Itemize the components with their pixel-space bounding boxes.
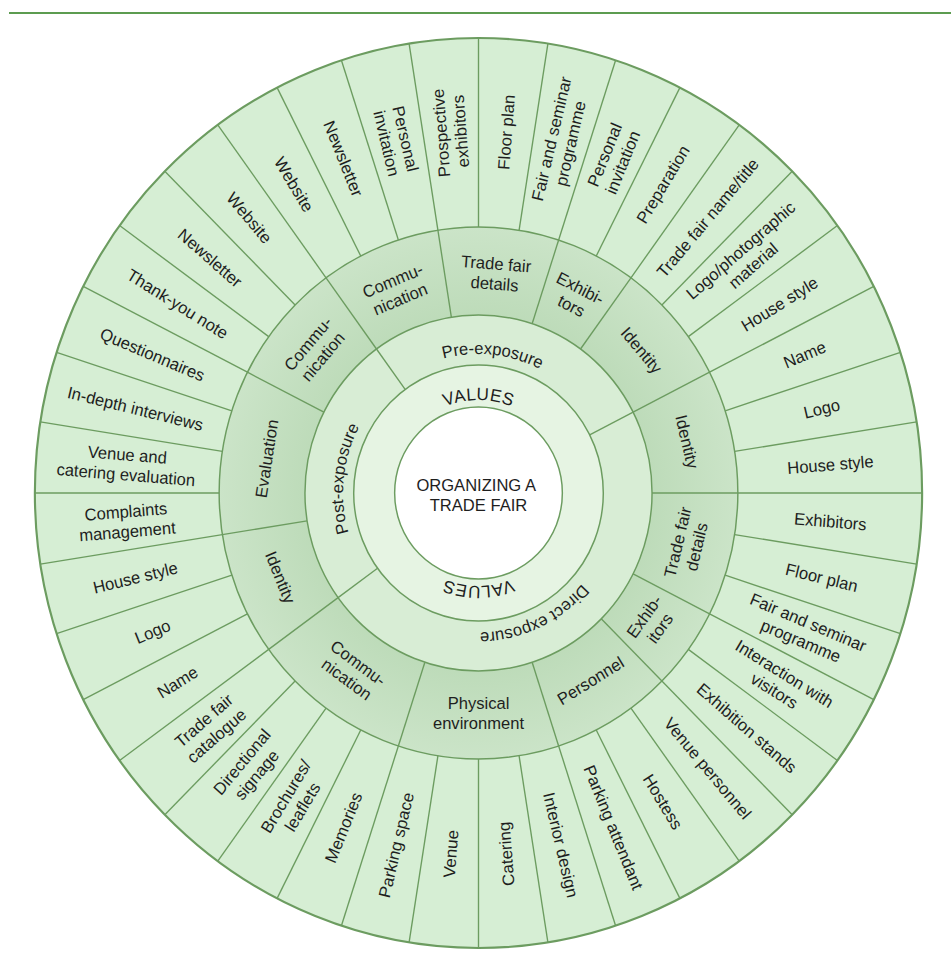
trade-fair-wheel-diagram: ORGANIZING A TRADE FAIR VALUES VALUES Pr… (30, 33, 927, 953)
item-label: Complaintsmanagement (77, 498, 177, 545)
item-label: Prospectiveexhibitors (429, 86, 474, 178)
diagram-title: ORGANIZING A TRADE FAIR (416, 476, 540, 515)
title-line: TRADE FAIR (430, 496, 527, 515)
title-line: ORGANIZING A (416, 476, 536, 495)
top-rule-divider (9, 12, 951, 14)
item-label: Venue (440, 829, 462, 879)
